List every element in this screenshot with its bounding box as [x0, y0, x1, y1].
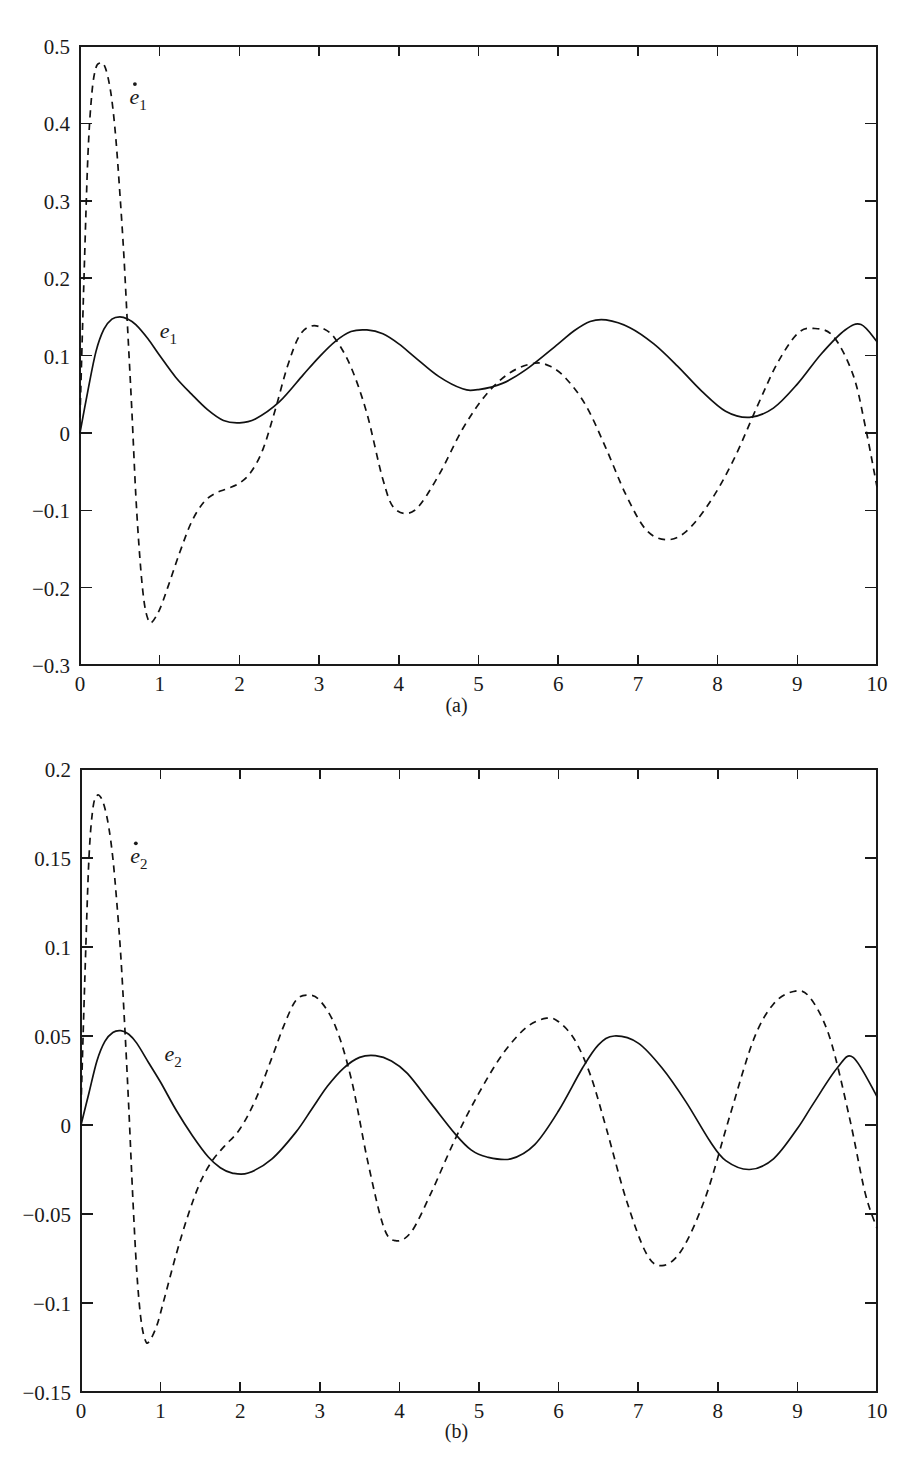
curve-annotation-e1-dot: e1	[129, 84, 146, 113]
overdot-icon	[133, 82, 137, 86]
x-tick-label: 5	[473, 672, 484, 696]
y-tick-label: −0.2	[32, 577, 70, 601]
plot-b-svg: 012345678910−0.15−0.1−0.0500.050.10.150.…	[0, 722, 913, 1462]
x-tick-label: 2	[234, 672, 245, 696]
x-tick-label: 0	[75, 672, 86, 696]
x-tick-label: 8	[712, 672, 723, 696]
y-tick-label: 0	[60, 422, 71, 446]
y-tick-label: 0.5	[44, 35, 70, 59]
x-tick-label: 4	[394, 672, 405, 696]
y-tick-label: 0.2	[45, 758, 71, 782]
y-tick-label: 0.3	[44, 190, 70, 214]
chart-panel-b: 012345678910−0.15−0.1−0.0500.050.10.150.…	[0, 722, 913, 1462]
curve-annotation-e1: e1	[160, 318, 177, 347]
series-e2	[81, 1031, 877, 1175]
x-tick-label: 9	[792, 672, 803, 696]
y-tick-label: −0.15	[22, 1381, 71, 1405]
y-tick-label: −0.05	[22, 1203, 71, 1227]
y-tick-label: 0	[61, 1114, 72, 1138]
x-tick-label: 1	[154, 672, 165, 696]
y-tick-label: 0.15	[34, 847, 71, 871]
overdot-icon	[134, 841, 138, 845]
x-tick-label: 6	[553, 672, 564, 696]
panel-b-caption: (b)	[0, 1420, 913, 1443]
x-tick-label: 3	[314, 672, 325, 696]
y-tick-label: 0.1	[45, 936, 71, 960]
y-tick-label: −0.1	[33, 1292, 71, 1316]
series-e2dot	[81, 795, 877, 1343]
x-tick-label: 10	[867, 672, 888, 696]
y-tick-label: −0.1	[32, 499, 70, 523]
y-tick-label: 0.1	[44, 345, 70, 369]
chart-panel-a: 012345678910−0.3−0.2−0.100.10.20.30.40.5…	[0, 0, 913, 730]
y-tick-label: 0.2	[44, 267, 70, 291]
plot-frame	[81, 769, 877, 1392]
y-tick-label: −0.3	[32, 654, 70, 678]
curve-annotation-e2-dot: e2	[130, 843, 147, 872]
panel-a-caption: (a)	[0, 694, 913, 717]
figure-root: 012345678910−0.3−0.2−0.100.10.20.30.40.5…	[0, 0, 913, 1462]
plot-frame	[80, 46, 877, 665]
curve-annotation-e2: e2	[165, 1041, 182, 1070]
y-tick-label: 0.4	[44, 112, 71, 136]
plot-a-svg: 012345678910−0.3−0.2−0.100.10.20.30.40.5…	[0, 0, 913, 730]
y-tick-label: 0.05	[34, 1025, 71, 1049]
series-e1	[80, 317, 877, 433]
series-e1dot	[80, 63, 877, 623]
x-tick-label: 7	[633, 672, 644, 696]
